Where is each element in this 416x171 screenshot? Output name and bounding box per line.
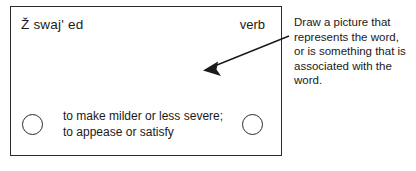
word-header-row: Ž swaj' ed verb [11, 16, 281, 36]
part-of-speech-label: verb [240, 16, 265, 34]
definition-row: to make milder or less severe; to appeas… [11, 103, 281, 147]
circle-bullet-right-icon [242, 114, 263, 135]
vocabulary-word-card: Ž swaj' ed verb to make milder or less s… [10, 6, 282, 156]
instruction-text: Draw a picture that represents the word,… [294, 15, 412, 88]
drawing-area[interactable] [12, 37, 280, 107]
word-pronunciation-text: Ž swaj' ed [21, 16, 83, 34]
circle-bullet-left-icon [22, 114, 43, 135]
definition-text: to make milder or less severe; to appeas… [63, 109, 243, 140]
